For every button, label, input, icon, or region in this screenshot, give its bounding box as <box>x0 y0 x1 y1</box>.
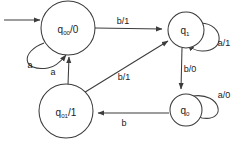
state-subscript-q0: 0 <box>186 109 190 116</box>
edge-label-q01-q1: b/1 <box>118 72 131 82</box>
state-output-q01: 1 <box>71 107 77 118</box>
edge-label-q00-self: a <box>27 60 32 70</box>
state-subscript-q1: 1 <box>186 29 190 36</box>
transition-q1-to-q0[interactable]: b/0 <box>181 48 196 89</box>
transition-q01-to-q1[interactable]: b/1 <box>82 41 168 94</box>
edge-label-q0-self: a/0 <box>218 90 231 100</box>
transition-q00-to-q1[interactable]: b/1 <box>95 16 162 29</box>
state-node-q0[interactable]: q0 <box>170 94 202 126</box>
transition-q0-to-q01[interactable]: b <box>98 113 169 128</box>
edge-label-q00-q1: b/1 <box>117 16 130 26</box>
state-node-q00[interactable]: q00/0 <box>41 1 95 55</box>
state-output-q00: 0 <box>73 24 79 35</box>
edge-label-q1-self: a/1 <box>218 38 231 48</box>
edge-label-q0-q01: b <box>121 118 126 128</box>
state-machine-diagram: a b/1 a/1 b/0 a/0 b a <box>0 0 240 145</box>
edge-label-q01-q00: a <box>50 67 55 77</box>
state-node-q01[interactable]: q01/1 <box>39 84 93 138</box>
state-node-q1[interactable]: q1 <box>168 12 204 48</box>
edge-label-q1-q0: b/0 <box>184 64 197 74</box>
